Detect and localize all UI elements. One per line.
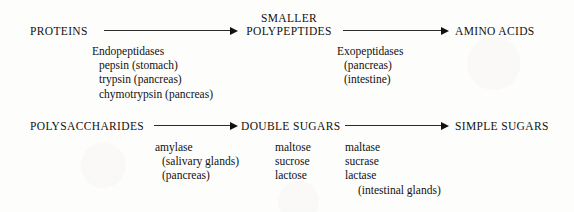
double-sugars-list: maltose sucrose lactose <box>275 140 311 183</box>
endopeptidases-list: Endopeptidases pepsin (stomach) trypsin … <box>92 44 213 101</box>
exopeptidases-list: Exopeptidases (pancreas) (intestine) <box>337 44 403 87</box>
arrow-shaft <box>343 30 441 31</box>
double-sugar-item: sucrose <box>275 154 311 168</box>
exopeptidases-item: (pancreas) <box>337 58 403 72</box>
disaccharidase-item: maltase <box>345 140 441 154</box>
protein-pathway-end-label: AMINO ACIDS <box>455 25 535 37</box>
arrowhead-icon <box>441 27 449 35</box>
arrowhead-icon <box>230 27 238 35</box>
amylase-list: amylase (salivary glands) (pancreas) <box>155 140 239 183</box>
arrow-shaft <box>104 30 230 31</box>
endopeptidases-item: chymotrypsin (pancreas) <box>92 87 213 101</box>
protein-pathway-middle-label-line1: SMALLER <box>241 12 337 25</box>
carbohydrate-arrow-2 <box>345 121 449 130</box>
carbohydrate-pathway-middle-label: DOUBLE SUGARS <box>241 120 340 132</box>
protein-arrow-2 <box>343 26 449 35</box>
carbohydrate-pathway-start-label: POLYSACCHARIDES <box>30 120 144 132</box>
carbohydrate-pathway-end-label: SIMPLE SUGARS <box>455 120 549 132</box>
double-sugar-item: lactose <box>275 168 311 182</box>
amylase-source-item: (salivary glands) <box>155 154 239 168</box>
carbohydrate-arrow-1 <box>154 121 238 130</box>
exopeptidases-item: (intestine) <box>337 72 403 86</box>
protein-pathway-start-label: PROTEINS <box>30 25 88 37</box>
amylase-source-item: (pancreas) <box>155 168 239 182</box>
arrow-shaft <box>345 125 441 126</box>
disaccharidase-item: sucrase <box>345 154 441 168</box>
endopeptidases-group-label: Endopeptidases <box>92 44 213 58</box>
disaccharidases-list: maltase sucrase lactase (intestinal glan… <box>345 140 441 197</box>
endopeptidases-item: pepsin (stomach) <box>92 58 213 72</box>
protein-pathway-middle-label-line2: POLYPEPTIDES <box>241 25 337 38</box>
arrow-shaft <box>154 125 230 126</box>
double-sugar-item: maltose <box>275 140 311 154</box>
amylase-group-label: amylase <box>155 140 239 154</box>
exopeptidases-group-label: Exopeptidases <box>337 44 403 58</box>
digestion-pathway-diagram: PROTEINS SMALLER POLYPEPTIDES AMINO ACID… <box>0 0 574 212</box>
disaccharidase-item: lactase <box>345 168 441 182</box>
protein-pathway-middle-label: SMALLER POLYPEPTIDES <box>241 12 337 38</box>
disaccharidase-source: (intestinal glands) <box>345 183 441 197</box>
arrowhead-icon <box>230 122 238 130</box>
endopeptidases-item: trypsin (pancreas) <box>92 72 213 86</box>
arrowhead-icon <box>441 122 449 130</box>
protein-arrow-1 <box>104 26 238 35</box>
